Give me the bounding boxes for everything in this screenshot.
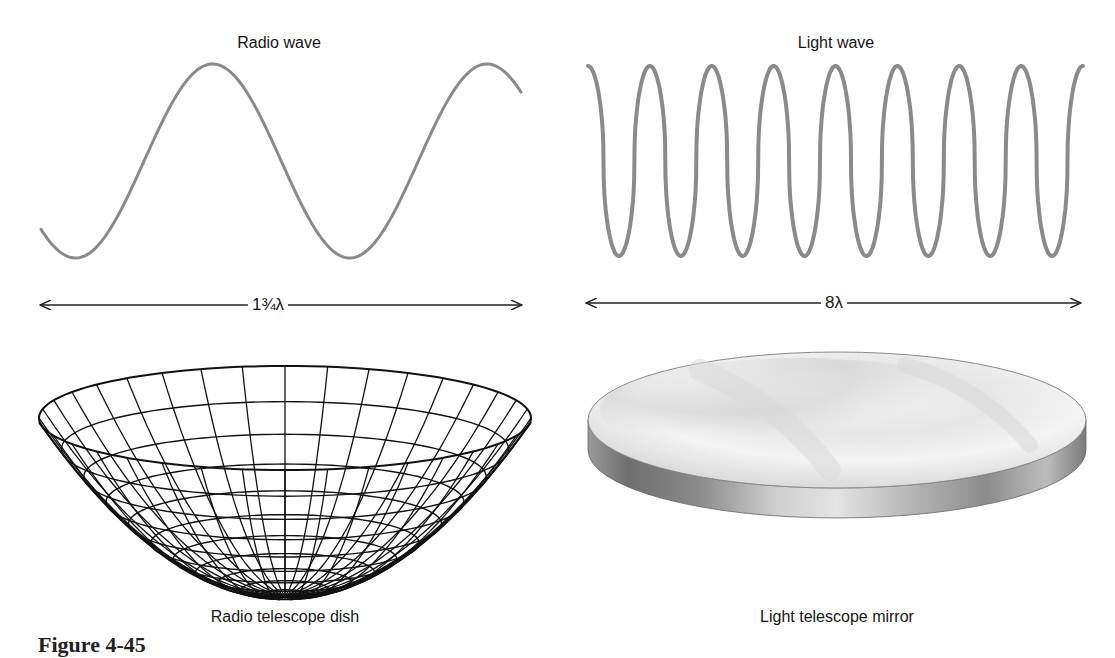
radio-dish-caption: Radio telescope dish: [211, 608, 360, 626]
light-mirror-caption: Light telescope mirror: [760, 608, 914, 626]
figure-number-caption: Figure 4-45: [38, 632, 146, 658]
